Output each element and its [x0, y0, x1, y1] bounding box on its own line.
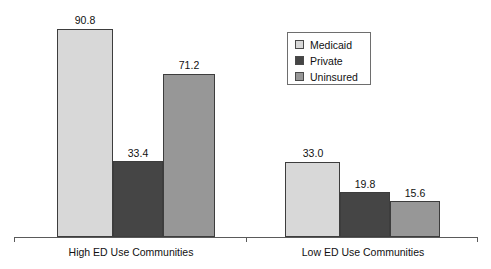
category-label-low-ed: Low ED Use Communities: [258, 246, 468, 259]
bar-low-uninsured[interactable]: [390, 201, 440, 237]
bar-chart: 90.8 33.4 71.2 33.0 19.8 15.6 High ED Us…: [0, 0, 491, 269]
bar-value-high-private: 33.4: [108, 147, 168, 159]
plot-area: 90.8 33.4 71.2 33.0 19.8 15.6 High ED Us…: [0, 0, 491, 269]
bar-value-low-uninsured: 15.6: [385, 187, 445, 199]
legend-swatch-medicaid-icon: [295, 40, 304, 49]
x-axis-tick-left: [14, 237, 15, 242]
legend-label-uninsured: Uninsured: [310, 71, 358, 83]
x-axis-tick-right: [477, 237, 478, 242]
legend-swatch-private-icon: [295, 56, 304, 65]
bar-high-uninsured[interactable]: [163, 74, 215, 237]
bar-low-medicaid[interactable]: [285, 162, 340, 237]
bar-value-low-medicaid: 33.0: [283, 147, 343, 159]
bar-value-high-uninsured: 71.2: [159, 59, 219, 71]
legend: Medicaid Private Uninsured: [287, 32, 371, 85]
bar-value-high-medicaid: 90.8: [55, 14, 115, 26]
bar-high-private[interactable]: [113, 161, 163, 237]
bar-high-medicaid[interactable]: [57, 29, 113, 237]
category-label-high-ed: High ED Use Communities: [26, 246, 236, 259]
legend-swatch-uninsured-icon: [295, 72, 304, 81]
legend-item-uninsured[interactable]: Uninsured: [295, 70, 363, 83]
x-axis-tick-middle: [246, 237, 247, 242]
legend-label-medicaid: Medicaid: [310, 39, 352, 51]
bar-low-private[interactable]: [340, 192, 390, 237]
legend-item-medicaid[interactable]: Medicaid: [295, 38, 363, 51]
legend-item-private[interactable]: Private: [295, 54, 363, 67]
legend-label-private: Private: [310, 55, 343, 67]
